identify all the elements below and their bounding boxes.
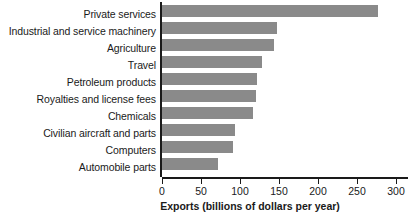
x-axis-tick bbox=[279, 179, 280, 184]
x-axis-tick bbox=[162, 179, 163, 184]
x-axis-tick bbox=[396, 179, 397, 184]
bar-row bbox=[162, 141, 408, 158]
bar-row bbox=[162, 39, 408, 56]
x-axis-tick-label: 300 bbox=[387, 185, 405, 197]
bar-row bbox=[162, 107, 408, 124]
bar-row bbox=[162, 124, 408, 141]
x-axis-tick-label: 200 bbox=[309, 185, 327, 197]
x-axis-tick bbox=[201, 179, 202, 184]
bar bbox=[162, 73, 257, 85]
bar bbox=[162, 22, 277, 34]
bar-chart: Private servicesIndustrial and service m… bbox=[0, 0, 410, 220]
bar bbox=[162, 5, 378, 17]
bar-row bbox=[162, 5, 408, 22]
bar-row bbox=[162, 73, 408, 90]
x-axis-tick bbox=[357, 179, 358, 184]
x-axis-tick bbox=[318, 179, 319, 184]
x-axis-title: Exports (billions of dollars per year) bbox=[0, 200, 410, 212]
plot-area bbox=[162, 5, 408, 176]
x-axis-tick bbox=[240, 179, 241, 184]
bar-row bbox=[162, 90, 408, 107]
category-label: Petroleum products bbox=[0, 73, 159, 90]
x-axis-tick-label: 250 bbox=[348, 185, 366, 197]
category-label: Agriculture bbox=[0, 39, 159, 56]
category-label: Private services bbox=[0, 5, 159, 22]
category-axis-labels: Private servicesIndustrial and service m… bbox=[0, 5, 159, 175]
x-axis-tick-label: 150 bbox=[270, 185, 288, 197]
category-label: Industrial and service machinery bbox=[0, 22, 159, 39]
x-axis-line bbox=[162, 177, 408, 179]
bar-row bbox=[162, 158, 408, 175]
category-label: Computers bbox=[0, 141, 159, 158]
category-label: Automobile parts bbox=[0, 158, 159, 175]
bar bbox=[162, 56, 262, 68]
bar bbox=[162, 158, 218, 170]
bar-row bbox=[162, 56, 408, 73]
y-axis-line bbox=[160, 2, 162, 177]
x-axis-tick-label: 50 bbox=[195, 185, 207, 197]
bar bbox=[162, 124, 235, 136]
bar bbox=[162, 39, 274, 51]
bar bbox=[162, 107, 253, 119]
x-axis-tick-label: 0 bbox=[159, 185, 165, 197]
bar-row bbox=[162, 22, 408, 39]
category-label: Civilian aircraft and parts bbox=[0, 124, 159, 141]
category-label: Royalties and license fees bbox=[0, 90, 159, 107]
category-label: Travel bbox=[0, 56, 159, 73]
bar bbox=[162, 90, 256, 102]
bar bbox=[162, 141, 233, 153]
category-label: Chemicals bbox=[0, 107, 159, 124]
x-axis-tick-label: 100 bbox=[231, 185, 249, 197]
